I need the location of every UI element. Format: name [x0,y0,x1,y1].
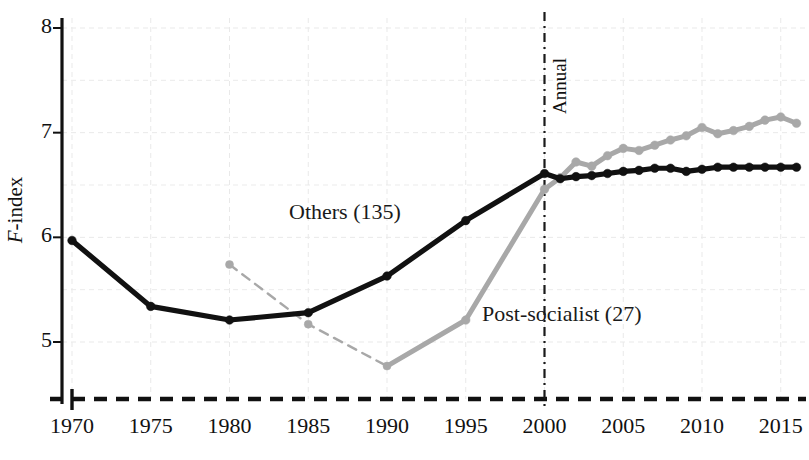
data-point [792,119,801,128]
x-tick-2005: 2005 [588,413,658,439]
data-point [698,123,707,132]
data-point [556,174,565,183]
data-point [572,172,581,181]
data-point [619,167,628,176]
data-point [603,169,612,178]
y-tick-5: 5 [18,327,52,353]
data-point [650,141,659,150]
data-point [603,151,612,160]
chart-container: F-index Annual Others (135) Post-sociali… [0,0,809,460]
data-point [713,163,722,172]
data-point [698,165,707,174]
data-point [761,116,770,125]
data-point [619,144,628,153]
data-point [792,163,801,172]
y-axis-title: F-index [3,155,31,265]
annual-divider-label: Annual [549,44,573,128]
x-tick-2015: 2015 [746,413,809,439]
data-point [461,316,470,325]
data-point [225,316,234,325]
x-tick-1975: 1975 [116,413,186,439]
x-tick-1990: 1990 [352,413,422,439]
data-point [745,122,754,131]
series-label-others: Others (135) [289,199,401,225]
y-tick-7: 7 [18,118,52,144]
data-point [650,164,659,173]
data-point [540,185,549,194]
x-tick-1985: 1985 [273,413,343,439]
series-post-socialist [226,113,801,370]
data-point [304,320,312,328]
data-point [729,126,738,135]
data-point [383,272,392,281]
series-line [387,117,797,366]
data-point [146,302,155,311]
x-tick-1980: 1980 [195,413,265,439]
data-point [682,132,691,141]
data-point [540,169,549,178]
x-tick-2000: 2000 [510,413,580,439]
data-point [666,136,675,145]
data-point [635,166,644,175]
grid-lines [62,18,806,399]
data-point [587,162,596,171]
data-point [304,308,313,317]
data-point [383,362,391,370]
y-tick-6: 6 [18,222,52,248]
data-point [776,113,785,122]
chart-plot-area [0,0,809,460]
data-point [761,163,770,172]
data-point [461,216,470,225]
y-tick-8: 8 [18,13,52,39]
x-tick-1970: 1970 [37,413,107,439]
data-point [635,146,644,155]
data-point [587,171,596,180]
data-point [666,164,675,173]
x-tick-1995: 1995 [431,413,501,439]
series-others [68,163,801,324]
series-line [72,167,797,320]
data-point [682,167,691,176]
data-point [226,261,234,269]
data-point [729,163,738,172]
data-point [572,158,581,167]
x-tick-2010: 2010 [667,413,737,439]
data-point [745,163,754,172]
data-point [68,236,77,245]
series-label-post-socialist: Post-socialist (27) [482,301,642,327]
data-point [713,129,722,138]
data-point [776,163,785,172]
